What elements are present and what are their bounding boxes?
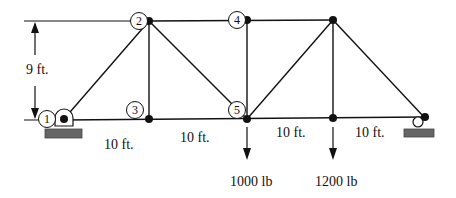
span-label-1: 10 ft. (104, 138, 134, 152)
node-label-4: 4 (228, 11, 246, 29)
truss-diagram (0, 0, 456, 198)
roller-support-icon (404, 117, 434, 137)
node-label-3: 3 (126, 101, 144, 119)
load-arrow-1000-icon (243, 127, 251, 160)
height-dimension-label: 9 ft. (26, 63, 49, 77)
load-label-1200: 1200 lb (315, 175, 357, 189)
node-label-5: 5 (228, 101, 246, 119)
span-label-3: 10 ft. (276, 126, 306, 140)
load-label-1000: 1000 lb (230, 175, 272, 189)
span-label-4: 10 ft. (355, 126, 385, 140)
node-label-2: 2 (130, 12, 148, 30)
dimension-arrow-up-icon (31, 22, 39, 33)
span-label-2: 10 ft. (180, 131, 210, 145)
node-label-1: 1 (38, 110, 56, 128)
load-arrow-1200-icon (329, 127, 337, 160)
truss-joints (145, 16, 429, 123)
